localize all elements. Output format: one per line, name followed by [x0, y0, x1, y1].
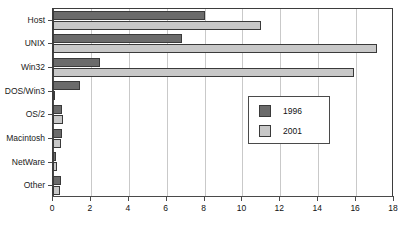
x-tick-label-14: 14	[305, 203, 329, 213]
category-label-netware: NetWare	[0, 157, 48, 167]
category-label-os2: OS/2	[0, 109, 48, 119]
bar-2001-host	[53, 21, 261, 30]
bar-1996-macintosh	[53, 129, 62, 138]
plot-area	[52, 8, 393, 197]
bar-group	[53, 33, 393, 57]
bar-1996-win32	[53, 58, 100, 67]
bar-group	[53, 127, 393, 151]
x-tick-mark-12	[279, 197, 280, 201]
bar-group	[53, 80, 393, 104]
category-label-doswin3: DOS/Win3	[0, 86, 48, 96]
category-label-host: Host	[0, 15, 48, 25]
x-tick-label-2: 2	[78, 203, 102, 213]
x-tick-mark-2	[90, 197, 91, 201]
x-tick-mark-18	[393, 197, 394, 201]
bar-group	[53, 9, 393, 33]
x-tick-label-6: 6	[154, 203, 178, 213]
x-tick-label-12: 12	[267, 203, 291, 213]
bar-2001-macintosh	[53, 139, 61, 148]
category-axis: HostUNIXWin32DOS/Win3OS/2MacintoshNetWar…	[0, 8, 52, 197]
bar-1996-netware	[53, 152, 56, 161]
legend-swatch-2001-icon	[259, 125, 271, 137]
x-tick-mark-14	[317, 197, 318, 201]
bar-2001-unix	[53, 44, 377, 53]
legend-label-2001: 2001	[283, 126, 302, 136]
x-tick-label-18: 18	[381, 203, 405, 213]
bar-group	[53, 174, 393, 197]
legend-swatch-1996-icon	[259, 105, 271, 117]
bar-2001-doswin3	[53, 91, 55, 100]
category-label-unix: UNIX	[0, 38, 48, 48]
category-label-macintosh: Macintosh	[0, 133, 48, 143]
x-tick-mark-10	[241, 197, 242, 201]
bar-1996-other	[53, 176, 61, 185]
x-tick-label-8: 8	[192, 203, 216, 213]
bar-2001-netware	[53, 162, 57, 171]
x-tick-mark-8	[204, 197, 205, 201]
bar-1996-host	[53, 11, 205, 20]
x-tick-mark-0	[52, 197, 53, 201]
x-tick-mark-16	[355, 197, 356, 201]
x-tick-label-4: 4	[116, 203, 140, 213]
bar-1996-os2	[53, 105, 62, 114]
x-tick-label-0: 0	[40, 203, 64, 213]
bar-2001-other	[53, 186, 60, 195]
bar-chart: HostUNIXWin32DOS/Win3OS/2MacintoshNetWar…	[0, 0, 412, 228]
bar-1996-doswin3	[53, 81, 80, 90]
bar-group	[53, 151, 393, 175]
x-tick-label-16: 16	[343, 203, 367, 213]
chart-legend: 1996 2001	[248, 96, 330, 144]
x-tick-label-10: 10	[229, 203, 253, 213]
bar-2001-os2	[53, 115, 63, 124]
legend-label-1996: 1996	[283, 106, 302, 116]
x-tick-mark-4	[128, 197, 129, 201]
x-axis-ticks: 024681012141618	[52, 197, 394, 215]
x-tick-mark-6	[166, 197, 167, 201]
bar-2001-win32	[53, 68, 354, 77]
bar-1996-unix	[53, 34, 182, 43]
category-label-win32: Win32	[0, 62, 48, 72]
bar-group	[53, 104, 393, 128]
category-label-other: Other	[0, 180, 48, 190]
bar-group	[53, 56, 393, 80]
